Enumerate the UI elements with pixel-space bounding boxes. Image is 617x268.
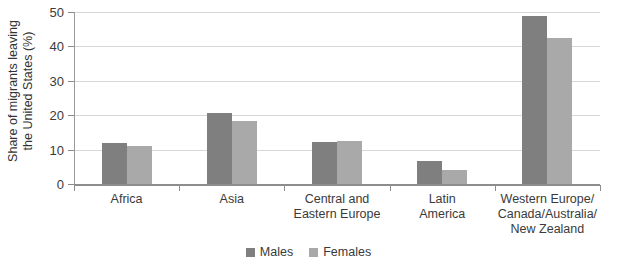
legend-swatch-males (246, 248, 255, 257)
y-axis-tick-label: 20 (36, 109, 64, 122)
x-axis-separator-tick (495, 185, 496, 191)
y-axis-tick-label: 10 (36, 144, 64, 157)
y-axis-title: Share of migrants leaving the United Sta… (6, 6, 36, 176)
y-axis-tick-label: 0 (36, 178, 64, 191)
bar-males-4 (522, 16, 547, 184)
x-axis-line (74, 184, 600, 186)
x-axis-label-3: Latin America (390, 192, 495, 222)
bar-females-2 (337, 141, 362, 184)
bar-chart: Share of migrants leaving the United Sta… (0, 0, 617, 268)
bar-females-1 (232, 121, 257, 184)
x-axis-edge-tick (600, 185, 601, 191)
x-axis-separator-tick (284, 185, 285, 191)
y-axis-title-container: Share of migrants leaving the United Sta… (0, 0, 40, 190)
y-axis-tick-label: 50 (36, 6, 64, 19)
x-axis-label-0: Africa (74, 192, 179, 207)
bar-females-3 (442, 170, 467, 184)
x-axis-edge-tick (74, 185, 75, 191)
legend-item-females[interactable]: Females (309, 246, 371, 259)
x-axis-label-1: Asia (179, 192, 284, 207)
bar-males-3 (417, 161, 442, 184)
x-axis-label-4: Western Europe/ Canada/Australia/ New Ze… (495, 192, 600, 237)
legend-label-females: Females (323, 246, 371, 259)
bar-males-1 (207, 113, 232, 184)
bar-females-4 (547, 38, 572, 184)
legend-label-males: Males (260, 246, 293, 259)
legend-swatch-females (309, 248, 318, 257)
x-axis-label-2: Central and Eastern Europe (284, 192, 389, 222)
chart-legend: MalesFemales (0, 246, 617, 259)
plot-area (74, 12, 600, 184)
x-axis-separator-tick (390, 185, 391, 191)
legend-item-males[interactable]: Males (246, 246, 293, 259)
bar-females-0 (127, 146, 152, 184)
y-axis-tick-label: 30 (36, 75, 64, 88)
x-axis-separator-tick (179, 185, 180, 191)
bar-males-2 (312, 142, 337, 184)
y-axis-tick-label: 40 (36, 40, 64, 53)
bar-males-0 (102, 143, 127, 184)
